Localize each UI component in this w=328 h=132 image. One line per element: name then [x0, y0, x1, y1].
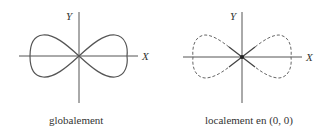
- figure-global: [19, 12, 138, 103]
- x-axis-label: X: [142, 50, 149, 62]
- caption-global: globalement: [49, 114, 103, 126]
- diagram-canvas: [0, 0, 328, 132]
- y-axis-label: Y: [230, 10, 236, 22]
- x-axis-label: X: [306, 51, 313, 63]
- origin-point: [240, 55, 244, 59]
- figure-local: [183, 12, 302, 103]
- y-axis-label: Y: [66, 10, 72, 22]
- caption-local: localement en (0, 0): [205, 114, 293, 126]
